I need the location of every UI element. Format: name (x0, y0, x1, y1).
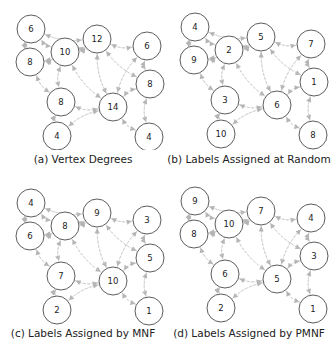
panel-random-labels: 49257136108 (b) Labels Assigned at Rando… (166, 0, 332, 178)
node-D: 7 (247, 197, 275, 225)
node-I: 2 (43, 296, 71, 324)
node-label: 2 (54, 305, 59, 315)
node-H: 14 (99, 93, 127, 121)
node-E: 4 (297, 204, 325, 232)
node-label: 6 (28, 24, 33, 34)
node-label: 4 (54, 131, 59, 141)
node-G: 8 (47, 88, 75, 116)
arrowhead-B-G (208, 85, 214, 90)
node-G: 7 (47, 262, 75, 290)
node-label: 6 (274, 100, 279, 110)
node-label: 3 (144, 215, 149, 225)
node-F: 8 (136, 70, 164, 98)
node-label: 9 (191, 55, 196, 65)
arrowhead-H-F (294, 85, 299, 90)
node-D: 9 (83, 199, 111, 227)
edge-H-C (236, 237, 265, 270)
node-label: 2 (226, 45, 231, 55)
edge-H-C (236, 63, 265, 96)
caption-random-labels: (b) Labels Assigned at Random (166, 153, 332, 165)
node-J: 1 (299, 295, 327, 323)
edge-H-C (72, 65, 101, 98)
node-label: 7 (58, 271, 63, 281)
node-label: 10 (60, 47, 71, 57)
node-C: 10 (215, 210, 243, 238)
node-label: 1 (310, 304, 315, 314)
node-A: 4 (17, 189, 45, 217)
node-I: 4 (43, 122, 71, 150)
node-J: 4 (135, 123, 163, 150)
node-B: 8 (180, 220, 208, 248)
arrowhead-H-D (95, 54, 100, 59)
node-label: 6 (222, 269, 227, 279)
node-C: 8 (51, 212, 79, 240)
node-F: 3 (300, 242, 328, 270)
node-label: 4 (146, 132, 151, 142)
node-label: 1 (146, 306, 151, 316)
arrowhead-H-D (95, 228, 100, 233)
node-label: 7 (258, 206, 263, 216)
node-B: 8 (16, 48, 44, 76)
node-label: 8 (27, 57, 32, 67)
edge-H-C (72, 239, 101, 272)
node-label: 5 (258, 32, 263, 42)
edge-C-H (72, 65, 101, 98)
node-label: 12 (92, 34, 103, 44)
node-label: 5 (274, 274, 279, 284)
arrowhead-H-F (130, 261, 135, 266)
graph-pmnf-labels: 98107436521 (166, 178, 332, 328)
arrowhead-J-H (122, 119, 127, 125)
node-B: 9 (180, 46, 208, 74)
arrowhead-A-C (46, 43, 51, 48)
panel-mnf-labels: 46893571021 (c) Labels Assigned by MNF (0, 178, 166, 356)
arrowhead-H-D (259, 226, 264, 231)
node-label: 10 (216, 129, 227, 139)
arrowhead-F-D (270, 49, 275, 55)
node-label: 10 (224, 219, 235, 229)
graph-random-labels: 49257136108 (166, 0, 332, 150)
node-E: 6 (133, 32, 161, 60)
arrowhead-A-C (46, 217, 51, 222)
edges (186, 32, 311, 129)
node-E: 3 (133, 206, 161, 234)
node-label: 4 (28, 198, 33, 208)
arrowhead-B-G (208, 259, 214, 264)
graph-vertex-degrees: 6810126881444 (0, 0, 166, 150)
arrowhead-J-H (122, 293, 127, 299)
edges (22, 208, 147, 305)
node-label: 2 (218, 303, 223, 313)
node-label: 4 (192, 22, 197, 32)
arrowhead-A-C (210, 41, 215, 46)
node-A: 4 (181, 13, 209, 41)
node-J: 8 (299, 121, 327, 149)
node-G: 6 (211, 260, 239, 288)
node-label: 8 (310, 130, 315, 140)
node-label: 10 (108, 276, 119, 286)
caption-mnf-labels: (c) Labels Assigned by MNF (0, 327, 166, 339)
node-I: 10 (207, 120, 235, 148)
node-label: 9 (94, 208, 99, 218)
arrowhead-H-D (259, 52, 264, 57)
node-label: 1 (311, 77, 316, 87)
node-A: 6 (17, 15, 45, 43)
arrowhead-F-D (106, 51, 111, 57)
node-label: 7 (308, 39, 313, 49)
arrowhead-A-C (210, 215, 215, 220)
arrowhead-F-D (106, 225, 111, 231)
node-label: 3 (222, 95, 227, 105)
panel-pmnf-labels: 98107436521 (d) Labels Assigned by PMNF (166, 178, 332, 356)
node-H: 10 (99, 267, 127, 295)
arrowhead-H-F (130, 87, 135, 92)
node-C: 2 (215, 36, 243, 64)
arrowhead-J-H (286, 291, 291, 297)
arrowhead-H-F (294, 259, 299, 264)
edge-C-H (72, 239, 101, 272)
node-label: 3 (311, 251, 316, 261)
caption-vertex-degrees: (a) Vertex Degrees (0, 153, 166, 165)
node-label: 6 (144, 41, 149, 51)
edge-C-H (236, 237, 265, 270)
node-label: 9 (192, 196, 197, 206)
arrowhead-B-G (44, 261, 50, 266)
edge-C-H (236, 63, 265, 96)
node-D: 12 (83, 25, 111, 53)
